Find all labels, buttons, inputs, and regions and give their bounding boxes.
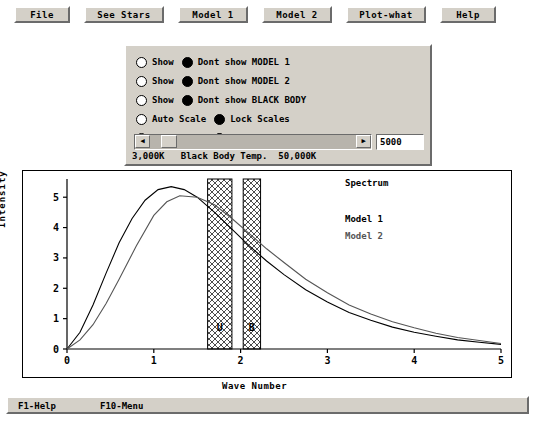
- svg-text:B: B: [249, 322, 255, 333]
- svg-text:U: U: [217, 322, 223, 333]
- svg-text:4: 4: [411, 355, 417, 366]
- radio-right-label-3: Lock Scales: [230, 114, 290, 124]
- option-row-1: ShowDont show MODEL 2: [136, 73, 290, 89]
- status-bar: F1-Help F10-Menu: [6, 396, 529, 414]
- slider-right-arrow-icon[interactable]: ▶: [356, 135, 371, 148]
- option-row-3: Auto ScaleLock Scales: [136, 111, 290, 127]
- svg-text:1: 1: [151, 355, 157, 366]
- status-f10-menu[interactable]: F10-Menu: [100, 401, 143, 411]
- radio-left-label-1: Show: [152, 76, 174, 86]
- radio-left-0[interactable]: [136, 57, 147, 68]
- svg-text:0: 0: [64, 355, 70, 366]
- radio-right-label-0: Dont show MODEL 1: [198, 57, 290, 67]
- plot-canvas: 012345012345 UB: [23, 171, 511, 377]
- y-axis-label: Intensity: [0, 170, 7, 228]
- radio-right-2[interactable]: [182, 95, 193, 106]
- temperature-value-field[interactable]: 5000: [376, 134, 424, 150]
- svg-text:3: 3: [53, 252, 59, 263]
- tick-labels: 012345012345: [53, 192, 504, 366]
- radio-left-3[interactable]: [136, 114, 147, 125]
- menu-item-model-2[interactable]: Model 2: [262, 6, 332, 23]
- svg-text:5: 5: [498, 355, 504, 366]
- status-f1-help[interactable]: F1-Help: [18, 401, 56, 411]
- x-axis-label: Wave Number: [222, 381, 287, 391]
- radio-left-label-0: Show: [152, 57, 174, 67]
- plot-axes: [63, 179, 501, 353]
- black-body-temp-slider[interactable]: ◀ ▶: [134, 134, 372, 150]
- menu-bar: FileSee StarsModel 1Model 2Plot-whatHelp: [0, 6, 535, 30]
- radio-left-1[interactable]: [136, 76, 147, 87]
- menu-item-plot-what[interactable]: Plot-what: [346, 6, 426, 23]
- radio-left-label-2: Show: [152, 95, 174, 105]
- menu-item-help[interactable]: Help: [440, 6, 496, 23]
- slider-thumb[interactable]: [161, 135, 177, 148]
- legend-model-1: Model 1: [345, 214, 383, 224]
- legend-model-2: Model 2: [345, 231, 383, 241]
- menu-item-file[interactable]: File: [14, 6, 70, 23]
- plot-title: Spectrum: [345, 178, 388, 188]
- option-row-2: ShowDont show BLACK BODY: [136, 92, 306, 108]
- radio-right-0[interactable]: [182, 57, 193, 68]
- slider-left-arrow-icon[interactable]: ◀: [135, 135, 150, 148]
- menu-item-see-stars[interactable]: See Stars: [84, 6, 164, 23]
- svg-text:4: 4: [53, 222, 59, 233]
- radio-right-3[interactable]: [214, 114, 225, 125]
- svg-text:2: 2: [238, 355, 244, 366]
- control-panel: ShowDont show MODEL 1ShowDont show MODEL…: [124, 44, 432, 166]
- plot-curves: [67, 187, 501, 349]
- menu-item-model-1[interactable]: Model 1: [178, 6, 248, 23]
- option-row-0: ShowDont show MODEL 1: [136, 54, 290, 70]
- band-labels: UB: [217, 322, 255, 333]
- svg-text:3: 3: [324, 355, 330, 366]
- temperature-range-label: 3,000K Black Body Temp. 50,000K: [132, 151, 316, 161]
- svg-text:1: 1: [53, 313, 59, 324]
- svg-text:0: 0: [53, 344, 59, 355]
- radio-right-1[interactable]: [182, 76, 193, 87]
- radio-left-label-3: Auto Scale: [152, 114, 206, 124]
- svg-text:2: 2: [53, 283, 59, 294]
- radio-left-2[interactable]: [136, 95, 147, 106]
- radio-right-label-2: Dont show BLACK BODY: [198, 95, 306, 105]
- radio-right-label-1: Dont show MODEL 2: [198, 76, 290, 86]
- svg-text:5: 5: [53, 192, 59, 203]
- spectrum-plot: 012345012345 UB: [22, 170, 512, 378]
